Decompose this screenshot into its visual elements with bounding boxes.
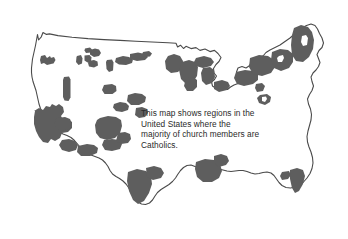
shaded-region-nevada-strip: [63, 77, 71, 102]
shaded-region-illinois: [184, 77, 197, 91]
map-caption: This map shows regions in the United Sta…: [141, 108, 271, 150]
map-figure: This map shows regions in the United Sta…: [0, 0, 348, 239]
shaded-region-utah: [102, 84, 117, 94]
